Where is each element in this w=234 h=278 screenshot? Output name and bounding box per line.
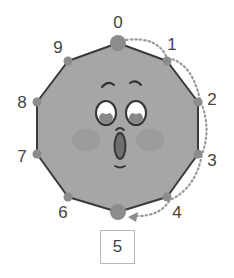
vertex-9: [64, 57, 73, 66]
left-eye: [96, 101, 116, 125]
vertex-label-2: 2: [207, 91, 216, 108]
vertex-3: [194, 150, 203, 159]
vertex-6: [64, 193, 73, 202]
vertex-label-8: 8: [17, 94, 26, 111]
vertex-label-1: 1: [167, 36, 176, 53]
vertex-label-4: 4: [172, 204, 181, 221]
mouth: [115, 133, 126, 159]
vertex-label-6: 6: [58, 204, 67, 221]
arrowhead-icon: [128, 212, 138, 222]
vertex-label-9: 9: [53, 39, 62, 56]
vertex-label-7: 7: [17, 148, 26, 165]
vertex-5: [110, 204, 126, 220]
vertex-label-0: 0: [113, 14, 122, 31]
decagon-body: [37, 43, 198, 212]
vertex-8: [33, 98, 42, 107]
answer-value: 5: [113, 237, 122, 257]
vertex-7: [33, 150, 42, 159]
decagon-diagram: 0 1 2 3 4 6 7 8 9 5: [0, 0, 234, 278]
vertex-0: [110, 35, 126, 51]
answer-box: 5: [100, 230, 135, 264]
left-cheek: [72, 129, 100, 151]
right-eye: [126, 101, 146, 125]
vertex-2: [194, 98, 203, 107]
vertex-label-3: 3: [207, 152, 216, 169]
vertex-4: [163, 193, 172, 202]
right-cheek: [136, 129, 164, 151]
vertex-1: [163, 57, 172, 66]
